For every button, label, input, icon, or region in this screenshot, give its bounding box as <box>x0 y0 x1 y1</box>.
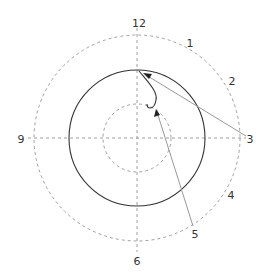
hour-label-2: 2 <box>229 75 236 88</box>
hour-label-12: 12 <box>132 17 146 30</box>
diagram-canvas: 12 1 2 3 4 5 6 9 <box>0 0 268 275</box>
hour-label-3: 3 <box>247 133 254 146</box>
clock-diagram: 12 1 2 3 4 5 6 9 <box>0 0 268 275</box>
hour-label-5: 5 <box>192 228 199 241</box>
pointer-line-5 <box>157 112 193 226</box>
hour-label-1: 1 <box>187 37 194 50</box>
hour-label-6: 6 <box>134 255 141 268</box>
hour-label-9: 9 <box>18 133 25 146</box>
hour-label-4: 4 <box>228 189 235 202</box>
